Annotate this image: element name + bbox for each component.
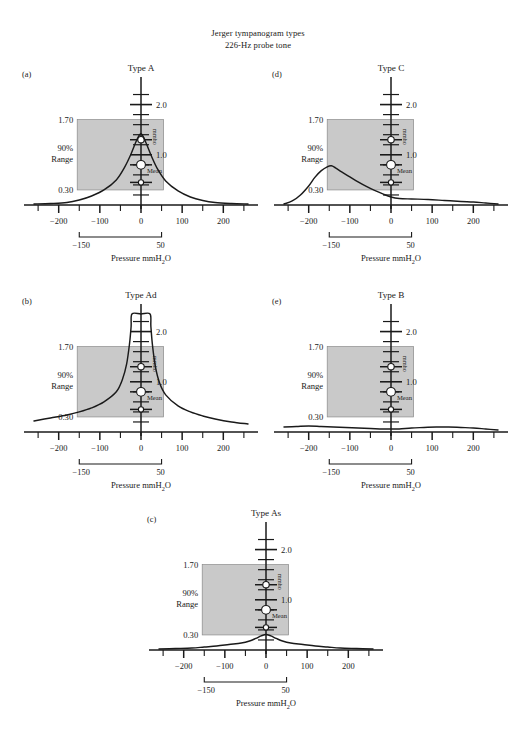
mean-label: Mean [397, 394, 413, 401]
panel-b-type-ad: −200−10001002002.01.0mmho1.700.3090%Rang… [8, 282, 258, 497]
x-tick-label: −100 [216, 662, 233, 671]
x-tick-label: 200 [217, 444, 230, 453]
bracket-left-label: −150 [323, 468, 340, 477]
panel-label-b: (b) [22, 297, 32, 306]
x-tick-label: −200 [300, 444, 317, 453]
panel-label-c: (c) [147, 515, 157, 524]
range-bottom-label: 0.30 [183, 630, 198, 640]
normative-marker [388, 407, 393, 412]
x-tick-label: 200 [342, 662, 355, 671]
panel-label-a: (a) [22, 70, 32, 79]
normative-marker [138, 180, 143, 185]
normative-marker [137, 160, 146, 169]
x-tick-label: 100 [176, 444, 189, 453]
x-axis-caption: Pressure mmH2O [111, 480, 171, 492]
mean-label: Mean [147, 394, 163, 401]
bracket-right-label: 50 [406, 241, 414, 250]
figure-title-line2: 226-Hz probe tone [0, 40, 516, 52]
pressure-bracket [204, 677, 286, 682]
range-top-label: 1.70 [308, 115, 323, 125]
bracket-left-label: −150 [198, 686, 215, 695]
bracket-left-label: −150 [73, 468, 90, 477]
panel-d-type-c: −200−10001002002.01.0mmho1.700.3090%Rang… [258, 55, 508, 270]
x-tick-label: −100 [341, 444, 358, 453]
x-tick-label: 0 [139, 217, 143, 226]
x-axis-caption-main: Pressure mmH [111, 253, 162, 263]
bracket-left-label: −150 [323, 241, 340, 250]
x-axis-caption-main: Pressure mmH [361, 253, 412, 263]
x-tick-label: 100 [301, 662, 314, 671]
normative-marker [387, 160, 396, 169]
x-tick-label: 200 [467, 444, 480, 453]
x-tick-label: 0 [389, 444, 393, 453]
panel-title-a: Type A [128, 63, 155, 73]
panel-c-type-as: −200−10001002002.01.0mmho1.700.3090%Rang… [133, 500, 383, 715]
x-axis-caption-tail: O [165, 480, 171, 490]
bracket-right-label: 50 [406, 468, 414, 477]
y-tick-label: 1.0 [281, 595, 292, 605]
panel-title-d: Type C [378, 63, 405, 73]
y-tick-label: 2.0 [406, 100, 417, 110]
panel-a-type-a: −200−10001002002.01.0mmho1.700.3090%Rang… [8, 55, 258, 270]
x-tick-label: 200 [467, 217, 480, 226]
normative-marker [263, 582, 269, 588]
mean-label: Mean [272, 612, 288, 619]
x-axis-caption: Pressure mmH2O [236, 698, 296, 710]
panel-plot-b: −200−10001002002.01.0mmho1.700.3090%Rang… [8, 282, 258, 497]
normative-marker [388, 137, 394, 143]
normative-marker [388, 364, 394, 370]
y-tick-label: 1.0 [156, 150, 167, 160]
y-tick-label: 2.0 [406, 327, 417, 337]
panel-label-e: (e) [272, 297, 282, 306]
y-axis-label: mmho [277, 574, 284, 590]
panel-plot-d: −200−10001002002.01.0mmho1.700.3090%Rang… [258, 55, 508, 270]
x-axis-caption-tail: O [415, 480, 421, 490]
x-tick-label: 0 [139, 444, 143, 453]
x-tick-label: 100 [426, 444, 439, 453]
y-axis-label: mmho [152, 129, 159, 145]
y-axis-label: mmho [402, 356, 409, 372]
y-tick-label: 2.0 [281, 545, 292, 555]
pressure-bracket [329, 232, 411, 237]
range-name-line1: 90% [57, 370, 73, 380]
bracket-right-label: 50 [156, 241, 164, 250]
x-axis-caption: Pressure mmH2O [111, 253, 171, 265]
bracket-left-label: −150 [73, 241, 90, 250]
x-tick-label: −100 [91, 217, 108, 226]
bracket-right-label: 50 [281, 686, 289, 695]
x-tick-label: 0 [389, 217, 393, 226]
panel-title-c: Type As [251, 508, 282, 518]
x-tick-label: −200 [300, 217, 317, 226]
pressure-bracket [329, 459, 411, 464]
panel-plot-a: −200−10001002002.01.0mmho1.700.3090%Rang… [8, 55, 258, 270]
x-axis-caption-tail: O [415, 253, 421, 263]
figure-title-line1: Jerger tympanogram types [0, 28, 516, 40]
pressure-bracket [79, 459, 161, 464]
normative-marker [137, 387, 146, 396]
normative-marker [388, 180, 393, 185]
y-tick-label: 1.0 [406, 377, 417, 387]
x-axis-caption-main: Pressure mmH [361, 480, 412, 490]
x-tick-label: −200 [175, 662, 192, 671]
x-tick-label: −100 [341, 217, 358, 226]
range-top-label: 1.70 [308, 342, 323, 352]
x-tick-label: 100 [426, 217, 439, 226]
range-name-line2: Range [301, 381, 323, 391]
range-top-label: 1.70 [58, 342, 73, 352]
range-bottom-label: 0.30 [58, 185, 73, 195]
range-name-line1: 90% [182, 588, 198, 598]
panel-plot-c: −200−10001002002.01.0mmho1.700.3090%Rang… [133, 500, 383, 715]
x-axis-caption-tail: O [290, 698, 296, 708]
y-tick-label: 1.0 [406, 150, 417, 160]
normative-marker [138, 407, 143, 412]
panel-label-d: (d) [272, 70, 282, 79]
range-name-line2: Range [51, 381, 73, 391]
pressure-bracket [79, 232, 161, 237]
range-bottom-label: 0.30 [308, 412, 323, 422]
x-tick-label: −200 [50, 444, 67, 453]
mean-label: Mean [397, 167, 413, 174]
x-tick-label: −100 [91, 444, 108, 453]
bracket-right-label: 50 [156, 468, 164, 477]
x-tick-label: −200 [50, 217, 67, 226]
x-axis-caption-main: Pressure mmH [111, 480, 162, 490]
